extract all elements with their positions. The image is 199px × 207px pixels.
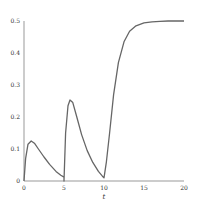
- y-tick-label: 0.2: [10, 113, 20, 120]
- y-tick-label: 0.5: [10, 17, 20, 24]
- x-tick-label: 5: [62, 184, 66, 191]
- x-tick-label: 20: [180, 184, 188, 191]
- y-tick-label: 0.3: [10, 81, 20, 88]
- y-tick-label: 0.1: [10, 145, 20, 152]
- x-tick-label: 15: [140, 184, 148, 191]
- x-axis-label: t: [103, 193, 106, 201]
- x-tick-label: 10: [100, 184, 108, 191]
- line-chart: 00.10.20.30.40.5 05101520 t: [0, 0, 199, 207]
- data-line: [24, 21, 184, 181]
- y-tick-label: 0.4: [10, 49, 20, 56]
- y-tick-label: 0: [16, 177, 20, 184]
- x-axis-ticks: 05101520: [22, 184, 188, 191]
- y-axis-ticks: 00.10.20.30.40.5: [10, 17, 20, 184]
- x-tick-label: 0: [22, 184, 26, 191]
